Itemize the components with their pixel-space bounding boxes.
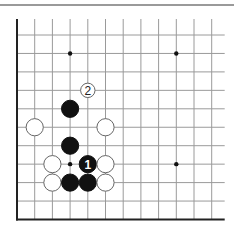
black-stone-icon <box>62 100 79 117</box>
black-stone-icon <box>62 174 79 191</box>
white-stone <box>97 119 114 136</box>
black-stone <box>62 174 79 191</box>
white-stone <box>97 156 114 173</box>
black-stone <box>62 100 79 117</box>
white-stone-move-2: 2 <box>81 83 95 98</box>
board-edges <box>16 19 225 221</box>
star-point-icon <box>68 162 72 166</box>
white-stone <box>97 174 114 191</box>
black-stone-icon <box>79 174 96 191</box>
black-stone-icon <box>62 137 79 154</box>
black-stone <box>79 174 96 191</box>
white-stone <box>26 119 43 136</box>
white-stone-icon <box>44 156 61 173</box>
white-stone-icon <box>97 174 114 191</box>
move-number-label: 2 <box>84 84 91 98</box>
white-stone-icon <box>44 174 61 191</box>
black-stone <box>62 137 79 154</box>
white-stone-icon <box>97 119 114 136</box>
white-stone-icon <box>26 119 43 136</box>
move-number-label: 1 <box>84 158 91 172</box>
star-point-icon <box>68 51 72 55</box>
white-stone <box>44 174 61 191</box>
white-stone <box>44 156 61 173</box>
go-board-diagram: 21 <box>0 0 236 233</box>
white-stone-icon <box>97 156 114 173</box>
star-point-icon <box>174 162 178 166</box>
black-stone-move-1: 1 <box>79 156 96 173</box>
star-point-icon <box>174 51 178 55</box>
